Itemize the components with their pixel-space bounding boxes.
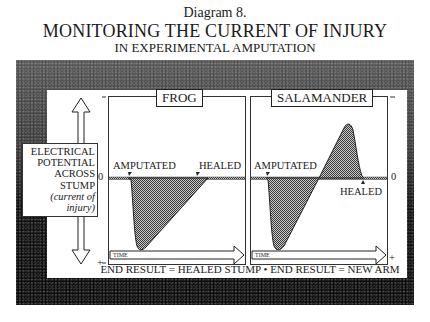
frog-amputated-label: AMPUTATED bbox=[113, 160, 176, 171]
frog-healed-label: HEALED bbox=[199, 160, 241, 171]
label-line: ELECTRICAL bbox=[23, 146, 95, 157]
label-line-italic: (current of bbox=[23, 191, 95, 202]
label-line: ACROSS bbox=[23, 168, 95, 179]
salamander-healed-label: HEALED bbox=[340, 186, 382, 197]
label-line: POTENTIAL bbox=[23, 157, 95, 168]
label-line: STUMP bbox=[23, 180, 95, 191]
end-result-caption: END RESULT = HEALED STUMP • END RESULT =… bbox=[100, 263, 400, 275]
salamander-panel-title: SALAMANDER bbox=[271, 89, 373, 107]
zero-label-right: 0 bbox=[391, 171, 396, 182]
frog-current-curve bbox=[128, 178, 208, 250]
frog-time-label: TIME bbox=[113, 252, 128, 258]
frog-panel-title: FROG bbox=[156, 89, 203, 107]
zero-label-left: 0 bbox=[98, 171, 103, 182]
plus-label-right: + bbox=[389, 252, 395, 263]
label-line-italic: injury) bbox=[23, 202, 95, 213]
salamander-time-label: TIME bbox=[255, 252, 270, 258]
salamander-current-curve-positive bbox=[319, 124, 364, 178]
salamander-amputated-label: AMPUTATED bbox=[254, 160, 317, 171]
time-arrow bbox=[110, 246, 386, 264]
salamander-current-curve-negative bbox=[266, 178, 319, 250]
y-axis-label: ELECTRICAL POTENTIAL ACROSS STUMP (curre… bbox=[22, 143, 98, 217]
